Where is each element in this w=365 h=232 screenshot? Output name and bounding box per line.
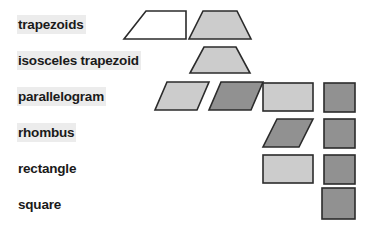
row-label-square: square [17, 195, 63, 214]
shape-isosceles-trapezoid-light-row1 [187, 9, 255, 41]
shape-parallelogram-light [153, 80, 211, 114]
shape-right-trapezoid-white [122, 9, 190, 41]
shape-square-dark-row4 [322, 117, 360, 151]
shape-square-dark-row3 [322, 81, 360, 115]
row-label-rectangle: rectangle [17, 159, 78, 178]
row-label-trapezoids: trapezoids [17, 15, 86, 34]
shape-rhombus-dark [261, 117, 316, 151]
shape-square-dark-row6 [320, 186, 360, 222]
shape-rectangle-light-row5 [261, 153, 316, 185]
row-label-parallelogram: parallelogram [17, 87, 106, 106]
row-label-isosceles-trapezoid: isosceles trapezoid [17, 51, 141, 70]
shape-parallelogram-dark [207, 80, 265, 114]
quadrilateral-hierarchy-diagram: trapezoids isosceles trapezoid parallelo… [0, 0, 365, 232]
shape-rectangle-light-row3 [261, 81, 316, 113]
shape-square-dark-row5 [322, 153, 360, 187]
row-label-rhombus: rhombus [17, 123, 76, 142]
shape-isosceles-trapezoid-light-row2 [188, 45, 254, 77]
